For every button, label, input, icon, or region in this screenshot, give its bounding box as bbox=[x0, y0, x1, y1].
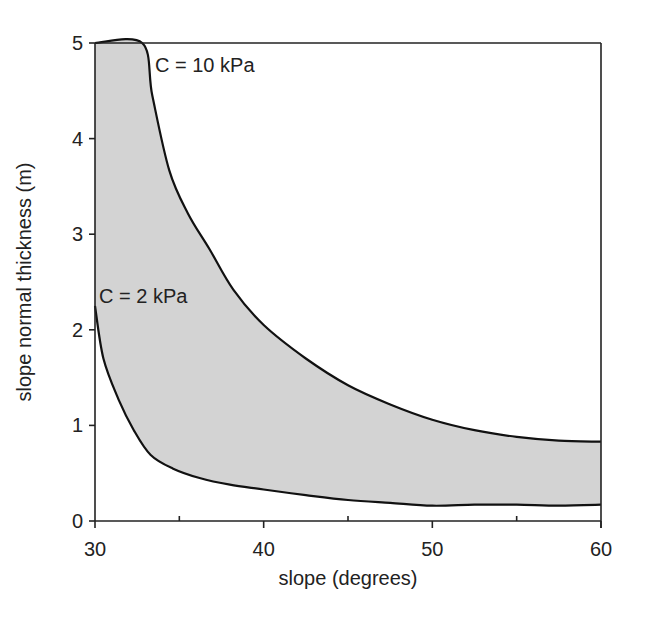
x-tick-label: 60 bbox=[590, 538, 612, 560]
y-tick-label: 3 bbox=[72, 223, 83, 245]
x-axis-ticks: 30405060 bbox=[84, 516, 612, 560]
y-tick-label: 2 bbox=[72, 319, 83, 341]
annotation-c10kpa: C = 10 kPa bbox=[155, 54, 255, 76]
y-axis-title: slope normal thickness (m) bbox=[13, 163, 35, 402]
x-tick-label: 30 bbox=[84, 538, 106, 560]
y-tick-label: 4 bbox=[72, 128, 83, 150]
y-tick-label: 5 bbox=[72, 32, 83, 54]
x-axis-title: slope (degrees) bbox=[279, 567, 418, 589]
x-tick-label: 40 bbox=[253, 538, 275, 560]
x-tick-label: 50 bbox=[421, 538, 443, 560]
y-tick-label: 0 bbox=[72, 510, 83, 532]
y-axis-ticks: 012345 bbox=[72, 32, 95, 532]
chart: 30405060 012345 slope (degrees) slope no… bbox=[0, 0, 647, 623]
annotation-c2kpa: C = 2 kPa bbox=[99, 285, 188, 307]
plot-area bbox=[95, 39, 601, 506]
y-tick-label: 1 bbox=[72, 414, 83, 436]
band-fill bbox=[95, 39, 601, 506]
